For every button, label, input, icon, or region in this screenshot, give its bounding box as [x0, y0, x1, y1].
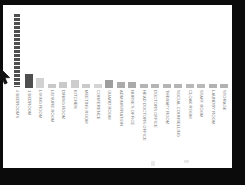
bar-rect	[174, 84, 182, 88]
x-tick-label: CONFERENCE	[94, 90, 102, 166]
x-tick-label-text: STORAGE	[222, 90, 226, 111]
x-tick-label: 1 BEDROOM	[25, 90, 33, 166]
bar-rect	[59, 82, 67, 88]
bar-rect	[117, 82, 125, 88]
bar-rect	[13, 13, 21, 88]
bar-rect	[82, 84, 90, 88]
x-tick-label: DOCTORS OFFICE	[151, 90, 159, 166]
x-tick-label: LEISURE ROOM	[48, 90, 56, 166]
x-tick-label: STAFF ROOM	[197, 90, 205, 166]
x-tick-label-text: STAFF ROOM	[199, 90, 203, 118]
x-tick-label: NURSE'S OFFICE	[128, 90, 136, 166]
x-tick-label: HEAD DOCTORS OFFICE	[140, 90, 148, 166]
x-tick-label-text: LAUNDRY ROOM	[210, 90, 214, 125]
x-tick-label: CLOAK ROOM	[186, 90, 194, 166]
x-tick-label-text: ADMINISTRATION	[118, 90, 122, 126]
x-tick-label-text: THERAPY ROOM	[164, 90, 168, 124]
bar-rect	[71, 80, 79, 88]
bar-rect	[220, 84, 228, 88]
canvas-artifact-left	[151, 161, 155, 166]
bar-rect	[36, 78, 44, 88]
x-tick-label: DINING ROOM	[59, 90, 67, 166]
mouse-pointer-icon	[0, 67, 11, 86]
x-tick-label-text: GUARD ROOM	[107, 90, 111, 120]
x-tick-label: LIVING ROOM	[36, 90, 44, 166]
x-tick-label-text: LEISURE ROOM	[49, 90, 53, 123]
x-tick-label: STORAGE	[220, 90, 228, 166]
screenshot-root: 4 BEDROOMS1 BEDROOMLIVING ROOMLEISURE RO…	[0, 0, 245, 185]
x-tick-label-text: 4 BEDROOMS	[15, 90, 19, 118]
x-tick-label-text: MEETING ROOM	[84, 90, 88, 124]
x-tick-label: LAUNDRY ROOM	[209, 90, 217, 166]
bar-rect	[94, 84, 102, 88]
x-tick-label-text: DOCTORS OFFICE	[153, 90, 157, 128]
bar-rect	[128, 82, 136, 88]
x-tick-label: ADMINISTRATION	[117, 90, 125, 166]
x-tick-label-text: HEAD DOCTORS OFFICE	[141, 90, 145, 141]
x-axis-label-area: 4 BEDROOMS1 BEDROOMLIVING ROOMLEISURE RO…	[13, 90, 228, 166]
x-tick-label-text: DINING ROOM	[61, 90, 65, 119]
chart-canvas: 4 BEDROOMS1 BEDROOMLIVING ROOMLEISURE RO…	[3, 5, 232, 168]
bar-rect	[48, 84, 56, 88]
x-tick-label-text: CONFERENCE	[95, 90, 99, 120]
x-tick-label: MEETING ROOM	[82, 90, 90, 166]
canvas-artifact-right	[184, 160, 189, 163]
bar-rect	[25, 74, 33, 88]
bar-plot-area	[13, 9, 228, 88]
x-tick-label-text: KITCHEN	[72, 90, 76, 109]
x-tick-label-text: CLOAK ROOM	[187, 90, 191, 119]
x-tick-label-text: LIVING ROOM	[38, 90, 42, 118]
bar-rect	[163, 84, 171, 88]
bar-rect	[197, 84, 205, 88]
bar-rect	[209, 84, 217, 88]
bar-rect	[105, 80, 113, 88]
bar-rect	[151, 84, 159, 88]
bar-rect	[140, 84, 148, 88]
x-tick-label-text: 1 BEDROOM	[26, 90, 30, 115]
x-tick-label: THERAPY ROOM	[163, 90, 171, 166]
bar-rect	[186, 84, 194, 88]
x-tick-label-text: SOCIAL COUNSELLING	[176, 90, 180, 137]
x-tick-label: GUARD ROOM	[105, 90, 113, 166]
x-tick-label: 4 BEDROOMS	[13, 90, 21, 166]
x-tick-label: SOCIAL COUNSELLING	[174, 90, 182, 166]
x-tick-label-text: NURSE'S OFFICE	[130, 90, 134, 125]
x-tick-label: KITCHEN	[71, 90, 79, 166]
